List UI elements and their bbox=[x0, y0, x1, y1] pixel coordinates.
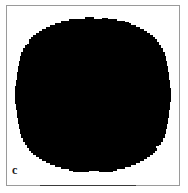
figure-panel: c bbox=[0, 0, 188, 193]
panel-letter-label: c bbox=[12, 164, 17, 176]
black-disk-icon bbox=[7, 6, 179, 185]
binary-shape-region bbox=[7, 6, 179, 185]
panel-frame-bottom-rule bbox=[40, 185, 136, 186]
